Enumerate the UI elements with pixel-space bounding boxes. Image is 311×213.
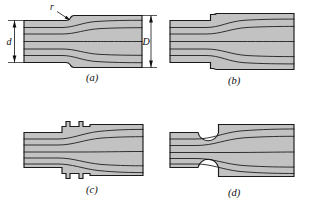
- d-arrowhead-top: [13, 21, 17, 28]
- panel-d: (d): [170, 125, 294, 200]
- panel-c-caption: (c): [86, 184, 98, 196]
- panel-c: (c): [24, 122, 143, 197]
- D-arrowhead-bottom: [149, 61, 153, 68]
- panel-d-caption: (d): [228, 187, 241, 199]
- panel-a-radius-callout: r: [50, 2, 71, 21]
- panel-a-D-dimension: D: [141, 16, 157, 68]
- engineering-figure-canvas: r d D (a): [0, 0, 311, 213]
- figure-root: r d D (a): [0, 0, 311, 213]
- panel-a: r d D (a): [7, 2, 158, 85]
- large-diameter-label: D: [142, 36, 151, 47]
- radius-label: r: [50, 2, 54, 12]
- panel-a-d-dimension: d: [7, 21, 26, 63]
- D-arrowhead-top: [149, 16, 153, 23]
- panel-b-caption: (b): [228, 75, 241, 87]
- panel-a-caption: (a): [86, 72, 99, 84]
- d-arrowhead-bottom: [13, 56, 17, 63]
- flow-line-3: [24, 152, 143, 153]
- small-diameter-label: d: [7, 36, 13, 47]
- flow-line-3: [170, 152, 294, 153]
- panel-b: (b): [170, 14, 294, 88]
